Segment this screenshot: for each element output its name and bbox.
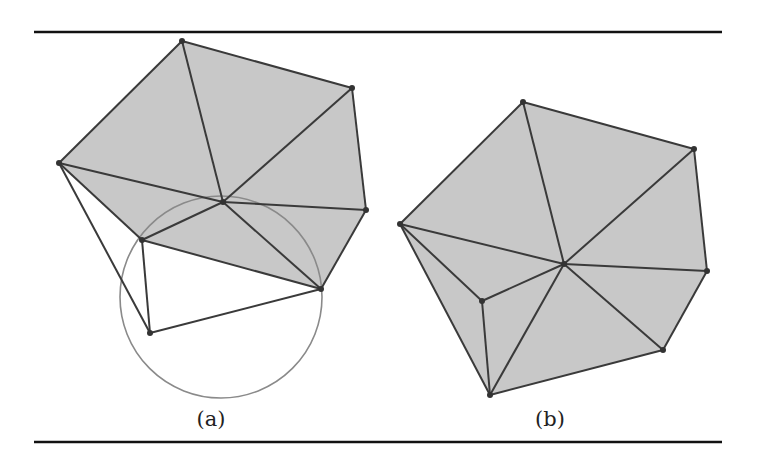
panel-a-label: (a)	[197, 407, 226, 431]
vertex	[318, 286, 324, 292]
edge	[150, 289, 321, 333]
panel-b-label: (b)	[535, 407, 565, 431]
triangulation-figure	[0, 0, 757, 466]
vertex	[520, 99, 526, 105]
vertex	[479, 298, 485, 304]
vertex	[691, 146, 697, 152]
vertex	[179, 38, 185, 44]
vertex	[487, 392, 493, 398]
vertex	[349, 85, 355, 91]
vertex	[561, 261, 567, 267]
vertex	[363, 207, 369, 213]
vertex	[397, 221, 403, 227]
panel-b-triangulation	[397, 99, 710, 398]
vertex	[660, 347, 666, 353]
vertex	[147, 330, 153, 336]
panel-a-triangulation	[56, 38, 369, 398]
vertex	[139, 237, 145, 243]
vertex	[220, 199, 226, 205]
vertex	[56, 160, 62, 166]
vertex	[704, 268, 710, 274]
